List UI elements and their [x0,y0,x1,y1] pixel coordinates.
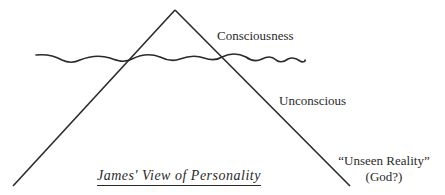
unseen-reality-label: “Unseen Reality” [335,154,433,167]
god-label: (God?) [335,170,433,183]
waterline-wave [36,54,305,62]
consciousness-label: Consciousness [217,29,294,42]
left-slope-line [13,10,175,186]
unconscious-label: Unconscious [279,94,346,107]
diagram-title: James' View of Personality [97,169,261,186]
